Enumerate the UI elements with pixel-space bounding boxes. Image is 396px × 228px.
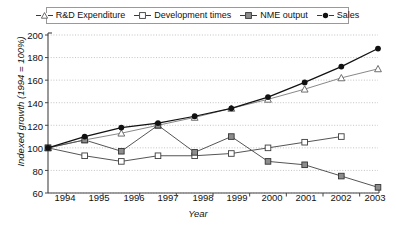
data-series-layer xyxy=(45,46,382,191)
series-sales xyxy=(45,46,381,151)
plot-area xyxy=(0,0,396,228)
gridlines xyxy=(48,35,378,193)
series-nme-output xyxy=(45,122,381,190)
line-chart: R&D Expenditure Development times NME ou… xyxy=(0,0,396,228)
series-development-times xyxy=(45,134,344,164)
